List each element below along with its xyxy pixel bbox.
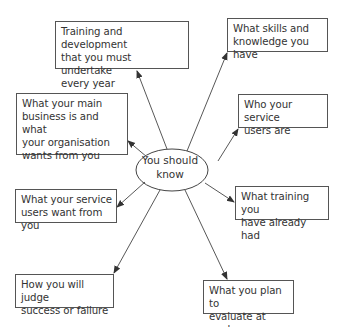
center-label: You should know — [132, 153, 208, 181]
mind-map-canvas: You should know Training and development… — [0, 0, 355, 327]
node-judge-success: How you will judge success or failure — [15, 274, 114, 308]
arrow-to-service-users — [218, 129, 238, 161]
node-skills-knowledge: What skills and knowledge you have — [227, 18, 328, 52]
node-training-development: Training and development that you must u… — [55, 21, 189, 69]
node-training-had: What training you have already had — [235, 186, 329, 220]
arrow-to-plan-evaluate — [185, 190, 227, 279]
arrow-to-training-had — [205, 183, 234, 202]
arrow-to-training-development — [137, 71, 167, 149]
node-plan-evaluate: What you plan to evaluate at work — [203, 280, 294, 314]
node-main-business: What your main business is and what your… — [16, 93, 128, 155]
arrow-to-judge-success — [114, 190, 160, 273]
arrow-to-skills-knowledge — [187, 53, 227, 151]
node-service-users: Who your service users are — [238, 94, 328, 128]
node-service-users-want: What your service users want from you — [15, 189, 117, 223]
arrow-to-service-users-want — [117, 182, 145, 207]
